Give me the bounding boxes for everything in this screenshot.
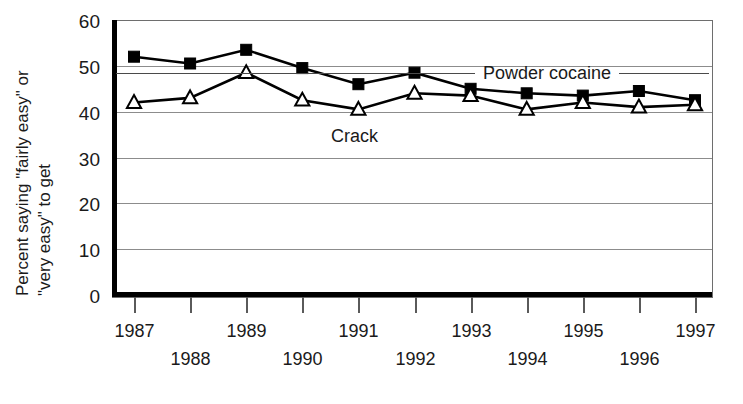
- x-tick-label-1995: 1995: [563, 321, 603, 341]
- data-point-1992: [409, 67, 420, 78]
- y-tick-labels: 0102030405060: [79, 11, 100, 307]
- data-point-1996: [633, 86, 644, 97]
- data-point-1994: [521, 88, 532, 99]
- annotation-label: Powder cocaine: [483, 63, 611, 83]
- x-tick-label-1991: 1991: [338, 321, 378, 341]
- x-tick-label-1990: 1990: [282, 349, 322, 369]
- data-point-1987: [129, 51, 140, 62]
- x-tick-labels-odd-years: 198719891991199319951997: [114, 321, 715, 341]
- y-tick-label-0: 0: [89, 286, 100, 307]
- y-gridlines: [112, 21, 712, 250]
- x-tick-marks: [135, 297, 696, 313]
- y-tick-label-50: 50: [79, 57, 100, 78]
- x-tick-label-1997: 1997: [675, 321, 715, 341]
- x-tick-label-1994: 1994: [507, 349, 547, 369]
- chart-container: Percent saying "fairly easy" or "very ea…: [0, 0, 743, 404]
- x-tick-label-1989: 1989: [226, 321, 266, 341]
- y-axis-title-line-1: Percent saying "fairly easy" or: [13, 70, 32, 296]
- y-tick-label-40: 40: [79, 103, 100, 124]
- data-point-1990: [297, 63, 308, 74]
- x-tick-label-1987: 1987: [114, 321, 154, 341]
- y-tick-label-20: 20: [79, 194, 100, 215]
- y-axis-title: Percent saying "fairly easy" or "very ea…: [13, 70, 54, 296]
- x-tick-label-1988: 1988: [170, 349, 210, 369]
- annotation-crack: Crack: [331, 126, 379, 146]
- data-point-1991: [353, 79, 364, 90]
- y-tick-label-10: 10: [79, 240, 100, 261]
- annotation-label: Crack: [331, 126, 379, 146]
- line-chart: Percent saying "fairly easy" or "very ea…: [0, 0, 743, 404]
- y-axis-title-line-2: "very easy" to get: [35, 164, 54, 296]
- data-point-1988: [185, 58, 196, 69]
- data-point-1989: [239, 65, 253, 78]
- y-tick-label-30: 30: [79, 149, 100, 170]
- data-point-1989: [241, 44, 252, 55]
- x-tick-label-1993: 1993: [451, 321, 491, 341]
- x-tick-label-1996: 1996: [619, 349, 659, 369]
- data-series-layer: [127, 44, 702, 115]
- y-tick-label-60: 60: [79, 11, 100, 32]
- x-tick-label-1992: 1992: [395, 349, 435, 369]
- x-tick-labels-even-years: 19881990199219941996: [170, 349, 659, 369]
